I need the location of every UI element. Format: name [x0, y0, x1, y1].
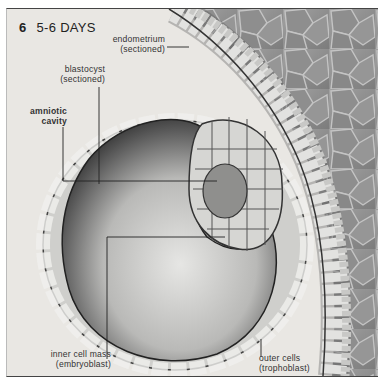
label-amniotic-line2: cavity — [9, 116, 67, 126]
label-icm-line2: (embryoblast) — [27, 359, 111, 369]
label-blastocyst: blastocyst (sectioned) — [47, 64, 105, 84]
label-blastocyst-line1: blastocyst — [47, 64, 105, 74]
figure-panel: 65-6 DAYS endometrium (sectioned) blasto… — [6, 8, 378, 377]
label-endometrium-line1: endometrium — [95, 34, 165, 44]
figure-stage: 5-6 DAYS — [37, 20, 96, 35]
figure-number: 6 — [19, 20, 27, 35]
label-outer-line1: outer cells — [259, 353, 329, 363]
label-blastocyst-line2: (sectioned) — [47, 74, 105, 84]
label-outer-cells: outer cells (trophoblast) — [259, 353, 329, 373]
label-outer-line2: (trophoblast) — [259, 363, 329, 373]
label-icm-line1: inner cell mass — [27, 349, 111, 359]
figure-title: 65-6 DAYS — [19, 20, 96, 35]
label-inner-cell-mass: inner cell mass (embryoblast) — [27, 349, 111, 369]
label-endometrium-line2: (sectioned) — [95, 44, 165, 54]
label-amniotic-line1: amniotic — [9, 106, 67, 116]
label-endometrium: endometrium (sectioned) — [95, 34, 165, 54]
label-amniotic-cavity: amniotic cavity — [9, 106, 67, 126]
